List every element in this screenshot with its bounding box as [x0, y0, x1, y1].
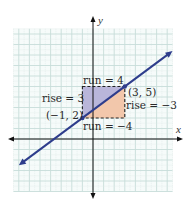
run-bottom-label: run = −4	[83, 120, 133, 132]
rise-right-label: rise = −3	[126, 99, 177, 111]
y-axis-arrow-up-icon	[91, 16, 96, 22]
point-label-neg1-2: (−1, 2)	[46, 109, 83, 121]
x-axis-arrow-right-icon	[177, 137, 183, 142]
y-axis-label: y	[97, 14, 103, 26]
coordinate-plane: run = 4 rise = 3 (−1, 2) (3, 5) rise = −…	[0, 0, 191, 205]
rise-left-label: rise = 3	[42, 92, 84, 104]
x-axis-arrow-left-icon	[8, 137, 14, 142]
point-label-3-5: (3, 5)	[128, 86, 156, 98]
run-top-label: run = 4	[83, 74, 124, 86]
y-axis-arrow-down-icon	[91, 193, 96, 199]
x-axis-label: x	[175, 123, 181, 135]
